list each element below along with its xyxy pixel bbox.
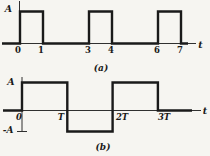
waveform-figure-canvas: 0134670T2T3T [0,0,210,156]
chart-b-amplitude-neg-label: -A [3,126,14,135]
chart-b-tick-label-2T: 2T [115,112,129,122]
chart-b-time-axis-label: t [203,106,207,116]
chart-a-caption: (a) [94,64,108,73]
chart-a-amplitude-label: A [5,4,12,14]
chart-a-tick-label-6: 6 [154,45,160,55]
chart-b-waveform [3,83,192,132]
chart-b-caption: (b) [96,143,111,152]
chart-b-tick-label-3T: 3T [158,112,171,122]
chart-a-time-axis-label: t [198,40,202,50]
chart-a-tick-label-7: 7 [177,45,183,55]
chart-a-waveform [2,12,188,44]
chart-b-amplitude-pos-label: A [7,77,14,87]
chart-a-tick-label-1: 1 [38,45,44,55]
chart-a-tick-label-0: 0 [15,45,21,55]
chart-b-tick-label-0: 0 [16,112,22,122]
figure-page: { "page": { "bg": "#f6f5f1", "ink": "#1a… [0,0,210,156]
chart-a-tick-label-4: 4 [108,45,114,55]
chart-b-tick-label-T: T [58,112,65,122]
chart-a-tick-label-3: 3 [85,45,91,55]
